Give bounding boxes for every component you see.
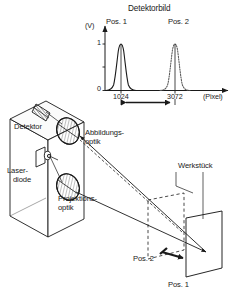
chart-title: Detektorbild: [128, 5, 171, 14]
label-projection-optics-1: Projektions-: [58, 195, 97, 203]
label-laserdiode-2: diode: [13, 176, 31, 184]
chart-x-tick-3072: 3072: [167, 93, 183, 101]
workpiece-plane-pos-1: [186, 211, 222, 277]
chart-label-pos-2: Pos. 2: [168, 18, 189, 26]
label-detektor: Detektor: [14, 123, 42, 131]
label-scene-pos-1: Pos. 1: [168, 281, 189, 289]
figure-canvas: Detektorbild Pos. 1 Pos. 2 (V) 1 0 1024 …: [0, 0, 235, 298]
chart-x-tick-1024: 1024: [113, 93, 129, 101]
label-werkstueck: Werkstück: [178, 162, 212, 170]
chart-y-axis-unit: (V): [85, 22, 94, 30]
diagram-vector-layer: [0, 0, 235, 298]
chart-label-pos-1: Pos. 1: [106, 18, 127, 26]
label-imaging-optics-2: optik: [85, 138, 101, 146]
chart-y-tick-1: 1: [97, 39, 101, 47]
label-projection-optics-2: optik: [58, 204, 74, 212]
chart-x-axis-unit: (Pixel): [203, 93, 223, 101]
label-imaging-optics-1: Abbildungs-: [85, 129, 124, 137]
label-laserdiode-1: Laser-: [7, 167, 28, 175]
workpiece-leader-lines: [176, 172, 203, 219]
return-beam-pos-2: [80, 140, 182, 232]
label-scene-pos-2: Pos. 2: [133, 255, 154, 263]
chart-y-tick-0: 0: [97, 85, 101, 93]
